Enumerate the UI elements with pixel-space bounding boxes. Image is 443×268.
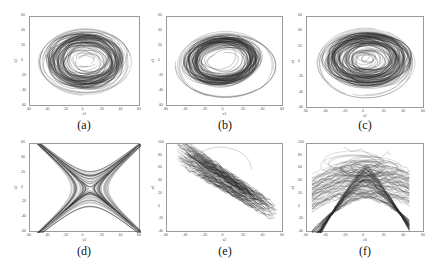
y-tick-label: 0 (298, 60, 300, 64)
x-tick-label: 40 (119, 234, 123, 238)
y-tick-label: -60 (21, 104, 26, 108)
panel-caption-c: (c) (355, 118, 375, 133)
y-tick-label: 60 (158, 166, 162, 170)
y-tick-label: -60 (158, 104, 163, 108)
y-tick-label: 20 (21, 171, 25, 175)
x-tick-label: 60 (421, 234, 425, 238)
x-tick-label: -60 (163, 108, 168, 112)
x-tick-label: -60 (26, 108, 31, 112)
x-tick-label: 20 (241, 234, 245, 238)
y-tick-label: 40 (158, 29, 162, 33)
trajectory-plot-a (30, 17, 141, 107)
trajectory-plot-f (307, 144, 425, 233)
y-tick-label: 20 (158, 44, 162, 48)
panel-caption-e: (e) (215, 244, 235, 259)
y-tick-label: -20 (21, 74, 26, 78)
y-tick-label: 60 (158, 14, 162, 18)
y-tick-label: -40 (298, 230, 303, 234)
y-tick-label: -20 (158, 74, 163, 78)
y-tick-label: 60 (298, 166, 302, 170)
trajectory-line (312, 197, 409, 232)
trajectory-line (312, 196, 409, 232)
x-axis-label: x3 (363, 239, 367, 243)
x-tick-label: 20 (382, 110, 386, 114)
x-tick-label: 60 (280, 234, 284, 238)
hollow-core (87, 58, 91, 66)
panel-caption-b: (b) (215, 118, 235, 133)
x-tick-label: 20 (382, 234, 386, 238)
y-tick-label: -60 (21, 230, 26, 234)
y-tick-label: -20 (21, 200, 26, 204)
x-axis-label: x1 (83, 113, 87, 117)
y-tick-label: -20 (158, 217, 163, 221)
y-axis-label: x3 (152, 59, 156, 63)
hollow-core (76, 58, 80, 66)
x-tick-label: -20 (342, 110, 347, 114)
y-tick-label: 40 (298, 29, 302, 33)
panel-caption-a: (a) (74, 118, 94, 133)
trajectory-line (312, 197, 409, 230)
y-tick-label: 40 (21, 29, 25, 33)
x-tick-label: -20 (202, 108, 207, 112)
y-axis-label: x3 (15, 185, 19, 189)
y-tick-label: 80 (158, 154, 162, 158)
x-tick-label: 60 (280, 108, 284, 112)
trajectory-line (30, 144, 71, 233)
x-tick-label: -20 (63, 108, 68, 112)
panel-caption-f: (f) (355, 244, 375, 259)
trajectory-plot-c (307, 17, 425, 109)
y-tick-label: 60 (298, 14, 302, 18)
y-tick-label: 0 (21, 186, 23, 190)
y-tick-label: 60 (21, 141, 25, 145)
x-tick-label: 0 (362, 234, 364, 238)
y-tick-label: 20 (158, 192, 162, 196)
y-tick-label: 60 (21, 14, 25, 18)
y-tick-label: -20 (298, 75, 303, 79)
x-tick-label: -40 (323, 234, 328, 238)
x-tick-label: 20 (100, 108, 104, 112)
y-tick-label: -40 (158, 89, 163, 93)
y-tick-label: 0 (158, 205, 160, 209)
y-tick-label: 20 (21, 44, 25, 48)
y-tick-label: 20 (298, 45, 302, 49)
x-tick-label: 40 (261, 108, 265, 112)
y-tick-label: 0 (298, 205, 300, 209)
x-tick-label: -60 (26, 234, 31, 238)
trajectory-line (30, 144, 72, 233)
y-tick-label: 20 (298, 192, 302, 196)
x-tick-label: 60 (421, 110, 425, 114)
y-tick-label: -40 (21, 89, 26, 93)
x-tick-label: -40 (183, 108, 188, 112)
y-tick-label: 100 (298, 141, 304, 145)
y-axis-label: x4 (292, 185, 296, 189)
panel-caption-d: (d) (74, 244, 94, 259)
x-tick-label: -40 (183, 234, 188, 238)
y-tick-label: -40 (21, 215, 26, 219)
y-tick-label: 40 (21, 156, 25, 160)
trajectory-plot-b (167, 17, 284, 107)
x-tick-label: 40 (261, 234, 265, 238)
y-tick-label: 0 (21, 59, 23, 63)
axes-d (29, 143, 140, 232)
y-tick-label: 80 (298, 154, 302, 158)
x-tick-label: -60 (163, 234, 168, 238)
x-tick-label: -40 (45, 234, 50, 238)
x-tick-label: 0 (222, 108, 224, 112)
axes-c (306, 16, 424, 108)
x-tick-label: -20 (342, 234, 347, 238)
axes-a (29, 16, 140, 106)
x-tick-label: 40 (401, 234, 405, 238)
x-tick-label: 60 (137, 234, 141, 238)
x-tick-label: 40 (119, 108, 123, 112)
y-axis-label: x4 (292, 60, 296, 64)
x-tick-label: 0 (82, 234, 84, 238)
y-axis-label: x4 (152, 185, 156, 189)
x-tick-label: -60 (303, 110, 308, 114)
x-axis-label: x2 (83, 239, 87, 243)
trajectory-line (312, 194, 409, 233)
trajectory-line (30, 144, 141, 173)
x-tick-label: 20 (241, 108, 245, 112)
trajectory-plot-d (30, 144, 141, 233)
x-tick-label: 40 (401, 110, 405, 114)
x-tick-label: 20 (100, 234, 104, 238)
